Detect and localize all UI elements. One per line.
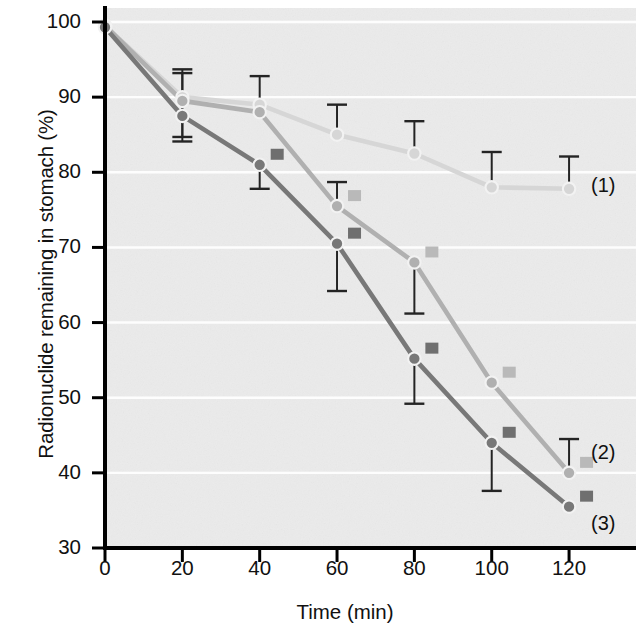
y-axis-tick-label: 100 [0, 11, 81, 32]
y-axis-tick-label: 90 [0, 86, 81, 107]
x-axis-tick-label: 60 [307, 558, 367, 579]
x-axis-tick-label: 20 [152, 558, 212, 579]
x-axis-tick-label: 40 [230, 558, 290, 579]
curve-end-label: (3) [591, 513, 615, 533]
y-axis-tick-label: 30 [0, 537, 81, 558]
y-axis-tick-label: 60 [0, 312, 81, 333]
x-axis-tick-label: 0 [75, 558, 135, 579]
curve-end-label: (2) [591, 442, 615, 462]
x-axis-tick-label: 100 [462, 558, 522, 579]
y-axis-tick-labels: 30405060708090100 [0, 0, 636, 635]
x-axis-tick-label: 80 [384, 558, 444, 579]
curve-end-label: (1) [591, 175, 615, 195]
y-axis-tick-label: 70 [0, 236, 81, 257]
x-axis-title: Time (min) [105, 600, 585, 624]
x-axis-tick-label: 120 [539, 558, 599, 579]
x-axis-tick-labels: 020406080100120 [0, 558, 636, 584]
y-axis-tick-label: 80 [0, 161, 81, 182]
y-axis-tick-label: 50 [0, 387, 81, 408]
y-axis-tick-label: 40 [0, 462, 81, 483]
chart-figure: Radionuclide remaining in stomach (%) 30… [0, 0, 636, 635]
